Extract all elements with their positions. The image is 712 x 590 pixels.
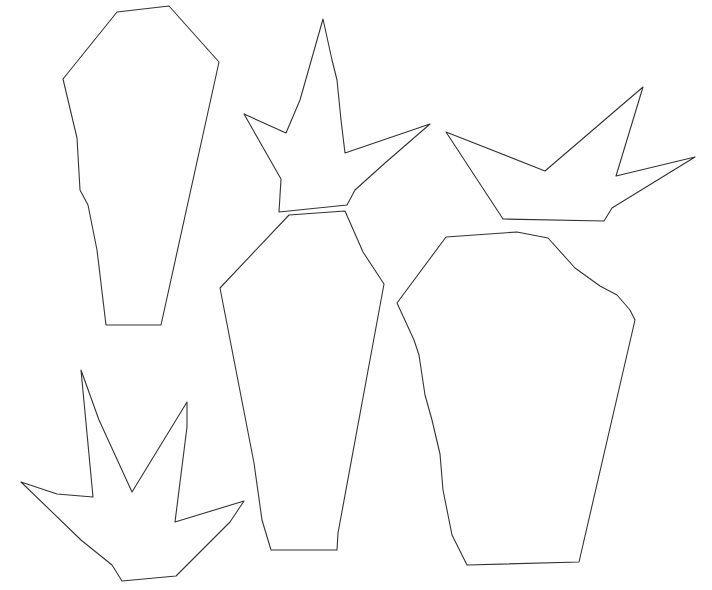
shape-tall-body-left [63, 6, 219, 325]
shapes-canvas [0, 0, 712, 590]
shape-spiky-top-right [446, 87, 695, 221]
shape-spiky-top-middle [244, 19, 430, 212]
shape-spiky-bottom-left [21, 370, 244, 581]
shape-tall-body-middle [220, 211, 384, 550]
shape-wide-body-right [397, 232, 635, 565]
